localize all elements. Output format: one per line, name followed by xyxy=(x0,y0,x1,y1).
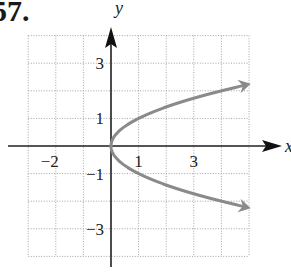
y-tick-label: 3 xyxy=(96,54,105,73)
x-axis-label: x xyxy=(284,136,291,156)
y-tick-label: −3 xyxy=(86,220,104,239)
x-tick-label: 3 xyxy=(190,152,199,171)
x-tick-label: −2 xyxy=(41,152,59,171)
x-tick-label: 1 xyxy=(134,152,143,171)
y-axis-label: y xyxy=(113,0,123,18)
y-tick-label: −1 xyxy=(86,165,104,184)
upper-branch-curve xyxy=(111,86,243,146)
lower-branch-curve xyxy=(111,146,243,206)
y-tick-label: 1 xyxy=(96,109,105,128)
parabola-graph: xy−21331−1−3 xyxy=(0,0,291,279)
